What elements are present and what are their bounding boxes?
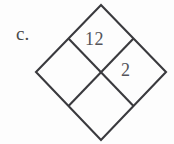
cell-value-top: 12: [85, 30, 104, 48]
diamond-grid-diagram: [0, 0, 174, 144]
cell-value-right: 2: [121, 61, 130, 79]
figure-container: c. 12 2: [0, 0, 174, 144]
